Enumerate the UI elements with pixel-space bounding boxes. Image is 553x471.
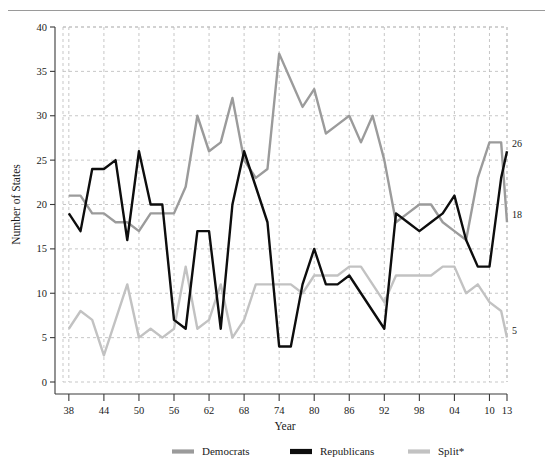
end-value-label-democrats: 18	[512, 209, 522, 220]
chart-figure: 0510152025303540Number of States38445056…	[0, 0, 553, 471]
end-value-label-split: 5	[512, 325, 517, 336]
series-line-split	[69, 267, 507, 356]
y-axis-tick-label: 30	[37, 110, 48, 121]
end-value-label-republicans: 26	[512, 138, 522, 149]
x-axis-tick-label: 44	[99, 405, 110, 416]
y-axis-title: Number of States	[10, 164, 22, 245]
x-axis-tick-label: 92	[379, 405, 390, 416]
x-axis-tick-label: 68	[239, 405, 250, 416]
y-axis-tick-label: 10	[37, 288, 48, 299]
x-axis-tick-label: 74	[274, 405, 285, 416]
x-axis-tick-label: 62	[204, 405, 215, 416]
line-chart-canvas: 0510152025303540Number of States38445056…	[0, 0, 553, 471]
x-axis-tick-label: 50	[134, 405, 145, 416]
x-axis-tick-label: 86	[344, 405, 355, 416]
y-axis-tick-label: 0	[42, 377, 47, 388]
legend-label-republicans: Republicans	[320, 445, 374, 457]
y-axis-tick-label: 20	[37, 199, 48, 210]
x-axis-tick-label: 10	[484, 405, 495, 416]
x-axis-tick-label: 98	[414, 405, 425, 416]
y-axis-tick-label: 40	[37, 22, 48, 33]
x-axis-tick-label: 13	[502, 405, 513, 416]
y-axis-tick-label: 25	[37, 155, 48, 166]
top-divider-rule	[8, 10, 545, 11]
legend-label-split: Split*	[438, 445, 464, 457]
x-axis-tick-label: 38	[64, 405, 75, 416]
y-axis-tick-label: 15	[37, 243, 48, 254]
y-axis-tick-label: 35	[37, 66, 48, 77]
x-axis-tick-label: 56	[169, 405, 180, 416]
x-axis-tick-label: 80	[309, 405, 320, 416]
y-axis-tick-label: 5	[42, 332, 47, 343]
legend-label-democrats: Democrats	[202, 445, 250, 457]
x-axis-title: Year	[274, 420, 295, 432]
x-axis-tick-label: 04	[449, 405, 460, 416]
series-line-democrats	[69, 54, 507, 240]
